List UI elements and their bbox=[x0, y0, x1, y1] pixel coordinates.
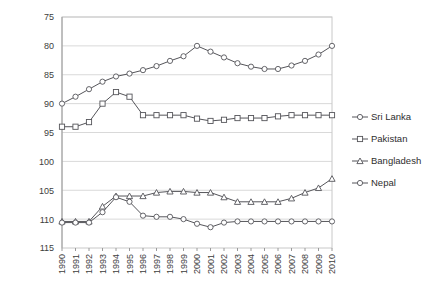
data-point bbox=[127, 199, 132, 204]
legend-item-pakistan[interactable]: Pakistan bbox=[352, 133, 407, 144]
data-point bbox=[248, 64, 253, 69]
y-axis-tick-label: 80 bbox=[44, 41, 54, 51]
data-point bbox=[167, 113, 172, 118]
legend-label: Bangladesh bbox=[371, 155, 421, 166]
data-point bbox=[221, 117, 226, 122]
data-point bbox=[181, 217, 186, 222]
data-point bbox=[113, 89, 118, 94]
data-point bbox=[316, 219, 321, 224]
line-chart: 7580859095100105110115199019911992199319… bbox=[0, 0, 433, 293]
chart-canvas: 7580859095100105110115199019911992199319… bbox=[0, 0, 433, 293]
data-point bbox=[154, 113, 159, 118]
data-point bbox=[316, 52, 321, 57]
data-point bbox=[194, 116, 199, 121]
data-point bbox=[235, 219, 240, 224]
data-point bbox=[100, 79, 105, 84]
x-axis-tick-label: 2001 bbox=[206, 254, 216, 274]
x-axis-tick-label: 1990 bbox=[57, 254, 67, 274]
series-bangladesh bbox=[59, 176, 335, 224]
data-point bbox=[113, 74, 118, 79]
legend-swatch-marker bbox=[357, 114, 362, 119]
data-point bbox=[59, 220, 64, 225]
legend-item-bangladesh[interactable]: Bangladesh bbox=[352, 155, 421, 166]
data-point bbox=[194, 221, 199, 226]
y-axis-tick-label: 75 bbox=[44, 12, 54, 22]
data-point bbox=[154, 214, 159, 219]
x-axis-tick-label: 2000 bbox=[192, 254, 202, 274]
legend-swatch-marker bbox=[357, 136, 362, 141]
legend-item-nepal[interactable]: Nepal bbox=[352, 177, 396, 188]
y-axis-tick-label: 85 bbox=[44, 70, 54, 80]
data-point bbox=[248, 219, 253, 224]
data-point bbox=[329, 176, 335, 182]
y-axis-tick-label: 90 bbox=[44, 99, 54, 109]
data-point bbox=[302, 58, 307, 63]
data-point bbox=[329, 43, 334, 48]
data-point bbox=[275, 114, 280, 119]
x-axis-tick-label: 2007 bbox=[287, 254, 297, 274]
data-point bbox=[194, 43, 199, 48]
x-axis-tick-label: 2006 bbox=[273, 254, 283, 274]
data-point bbox=[140, 113, 145, 118]
y-axis-tick-label: 110 bbox=[40, 215, 54, 225]
data-point bbox=[127, 94, 132, 99]
data-point bbox=[262, 219, 267, 224]
data-point bbox=[140, 68, 145, 73]
x-axis-tick-label: 1999 bbox=[179, 254, 189, 274]
x-axis-tick-label: 1994 bbox=[111, 254, 121, 274]
x-axis-tick-label: 1995 bbox=[125, 254, 135, 274]
data-point bbox=[329, 219, 334, 224]
legend-label: Nepal bbox=[371, 177, 396, 188]
x-axis-tick-label: 1998 bbox=[165, 254, 175, 274]
x-axis-tick-label: 1993 bbox=[98, 254, 108, 274]
x-axis-tick-label: 2003 bbox=[233, 254, 243, 274]
data-point bbox=[181, 113, 186, 118]
data-point bbox=[73, 220, 78, 225]
data-point bbox=[208, 225, 213, 230]
data-point bbox=[127, 71, 132, 76]
data-point bbox=[113, 195, 118, 200]
data-point bbox=[73, 94, 78, 99]
data-point bbox=[262, 115, 267, 120]
x-axis-tick-label: 1992 bbox=[84, 254, 94, 274]
legend-label: Sri Lanka bbox=[371, 111, 412, 122]
data-point bbox=[86, 87, 91, 92]
data-point bbox=[289, 63, 294, 68]
data-point bbox=[248, 115, 253, 120]
data-point bbox=[262, 66, 267, 71]
data-point bbox=[208, 118, 213, 123]
x-axis-tick-label: 2008 bbox=[300, 254, 310, 274]
data-point bbox=[86, 220, 91, 225]
x-axis-tick-label: 2005 bbox=[260, 254, 270, 274]
x-axis-tick-label: 2004 bbox=[246, 254, 256, 274]
x-axis-tick-label: 1991 bbox=[71, 254, 81, 274]
legend-label: Pakistan bbox=[371, 133, 407, 144]
data-point bbox=[208, 49, 213, 54]
data-point bbox=[316, 113, 321, 118]
series-pakistan bbox=[59, 89, 334, 129]
data-point bbox=[302, 219, 307, 224]
data-point bbox=[100, 210, 105, 215]
data-point bbox=[275, 219, 280, 224]
data-point bbox=[302, 113, 307, 118]
data-point bbox=[315, 185, 321, 191]
legend-swatch-marker bbox=[357, 180, 362, 185]
data-point bbox=[100, 101, 105, 106]
legend-item-sri-lanka[interactable]: Sri Lanka bbox=[352, 111, 412, 122]
data-point bbox=[140, 213, 145, 218]
data-point bbox=[59, 124, 64, 129]
data-point bbox=[167, 58, 172, 63]
data-point bbox=[235, 115, 240, 120]
data-point bbox=[288, 195, 294, 201]
x-axis-tick-label: 2002 bbox=[219, 254, 229, 274]
data-point bbox=[275, 66, 280, 71]
data-point bbox=[73, 124, 78, 129]
x-axis-tick-label: 2009 bbox=[314, 254, 324, 274]
data-point bbox=[221, 194, 227, 200]
data-point bbox=[167, 214, 172, 219]
y-axis-tick-label: 105 bbox=[39, 186, 54, 196]
data-point bbox=[181, 54, 186, 59]
y-axis-tick-label: 95 bbox=[44, 128, 54, 138]
data-point bbox=[289, 219, 294, 224]
data-point bbox=[59, 101, 64, 106]
